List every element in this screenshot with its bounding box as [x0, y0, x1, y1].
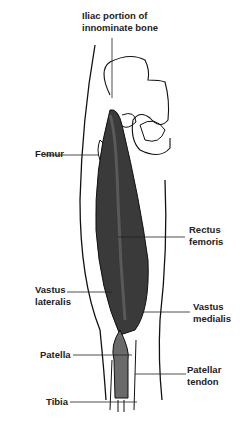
label-patella: Patella: [40, 349, 71, 361]
label-femur: Femur: [35, 148, 64, 160]
label-line: Patellar: [187, 364, 221, 376]
thigh-anatomy-illustration: [0, 0, 240, 426]
label-patellar-tendon: Patellar tendon: [187, 364, 221, 388]
label-line: medialis: [193, 313, 231, 325]
label-vastus-medialis: Vastus medialis: [193, 301, 231, 325]
label-line: Vastus: [35, 284, 71, 296]
label-rectus-femoris: Rectus femoris: [189, 224, 223, 248]
label-line: innominate bone: [82, 22, 158, 34]
label-line: Rectus: [189, 224, 223, 236]
label-line: Femur: [35, 148, 64, 160]
label-vastus-lateralis: Vastus lateralis: [35, 284, 71, 308]
label-line: Tibia: [46, 396, 68, 408]
label-line: Iliac portion of: [82, 10, 158, 22]
label-line: lateralis: [35, 296, 71, 308]
label-iliac-portion: Iliac portion of innominate bone: [82, 10, 158, 34]
label-tibia: Tibia: [46, 396, 68, 408]
label-line: Patella: [40, 349, 71, 361]
label-line: Vastus: [193, 301, 231, 313]
label-line: tendon: [187, 376, 221, 388]
label-line: femoris: [189, 236, 223, 248]
